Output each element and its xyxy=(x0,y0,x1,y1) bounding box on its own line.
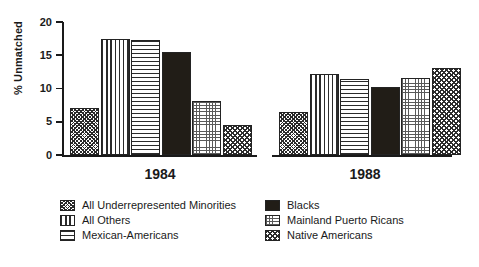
bar-1988-native-americans xyxy=(432,68,461,155)
legend-label: All Others xyxy=(82,214,130,226)
legend-label: All Underrepresented Minorities xyxy=(82,199,236,211)
bar-1984-all-others xyxy=(101,39,130,155)
legend-column-left: All Underrepresented MinoritiesAll Other… xyxy=(60,198,236,243)
legend-column-right: BlacksMainland Puerto RicansNative Ameri… xyxy=(265,198,404,243)
x-axis-baseline-1984 xyxy=(62,155,257,157)
plot-area: % Unmatched 20151050 1984 1988 xyxy=(0,0,479,196)
vertical-lines-swatch xyxy=(60,215,75,226)
legend-label: Mainland Puerto Ricans xyxy=(287,214,404,226)
bar-1988-all-others xyxy=(310,74,339,155)
group-label-1984: 1984 xyxy=(120,166,200,182)
diagonal-crosshatch-swatch xyxy=(60,200,75,211)
legend-label: Mexican-Americans xyxy=(82,229,179,241)
legend-item[interactable]: Mexican-Americans xyxy=(60,228,236,242)
legend-item[interactable]: All Others xyxy=(60,213,236,227)
group-label-1988: 1988 xyxy=(325,166,405,182)
chart-legend: All Underrepresented MinoritiesAll Other… xyxy=(0,196,479,254)
bar-1984-mexican-americans xyxy=(131,40,160,155)
legend-item[interactable]: Mainland Puerto Ricans xyxy=(265,213,404,227)
bar-1988-mexican-americans xyxy=(340,79,369,155)
bar-1984-blacks xyxy=(162,52,191,155)
solid-black-swatch xyxy=(265,200,280,211)
legend-label: Blacks xyxy=(287,199,319,211)
legend-item[interactable]: Native Americans xyxy=(265,228,404,242)
bar-1988-mainland-puerto-ricans xyxy=(401,78,430,155)
bar-chart: % Unmatched 20151050 1984 1988 All Under… xyxy=(0,0,479,267)
bar-1984-native-americans xyxy=(223,125,252,155)
bar-1984-mainland-puerto-ricans xyxy=(192,101,221,155)
bar-1988-all-underrepresented-minorities xyxy=(279,112,308,155)
legend-item[interactable]: Blacks xyxy=(265,198,404,212)
x-axis-baseline-1988 xyxy=(272,155,452,157)
legend-label: Native Americans xyxy=(287,229,373,241)
bar-1988-blacks xyxy=(371,87,400,155)
bar-1984-all-underrepresented-minorities xyxy=(70,108,99,155)
dotted-grid-swatch xyxy=(265,215,280,226)
bars-layer xyxy=(0,0,479,155)
horizontal-lines-swatch xyxy=(60,230,75,241)
legend-item[interactable]: All Underrepresented Minorities xyxy=(60,198,236,212)
diagonal-hatch-swatch xyxy=(265,230,280,241)
